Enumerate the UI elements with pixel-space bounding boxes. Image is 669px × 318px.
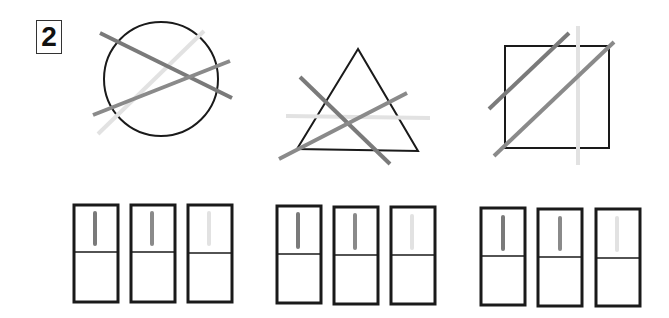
answer-box[interactable] — [74, 205, 118, 302]
answer-box[interactable] — [334, 207, 378, 304]
answer-box[interactable] — [481, 208, 525, 305]
answer-group-square — [481, 208, 640, 306]
answer-box[interactable] — [391, 207, 435, 304]
answer-box[interactable] — [277, 206, 321, 303]
answer-group-circle — [74, 205, 232, 302]
answer-box[interactable] — [188, 205, 232, 302]
mid-line[interactable] — [494, 42, 614, 156]
answer-group-triangle — [277, 206, 435, 304]
answer-box[interactable] — [538, 209, 582, 306]
figure-canvas — [0, 0, 669, 318]
triangle-figure[interactable] — [279, 49, 430, 164]
circle-figure[interactable] — [93, 22, 232, 136]
answer-box[interactable] — [596, 209, 640, 306]
square-figure[interactable] — [489, 26, 614, 165]
answer-box[interactable] — [131, 205, 175, 302]
